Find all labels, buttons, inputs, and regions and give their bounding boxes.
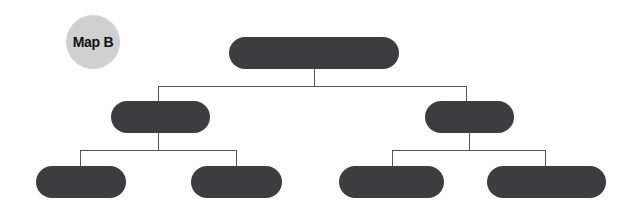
map-label-badge: Map B <box>66 15 120 69</box>
map-label-text: Map B <box>73 34 114 50</box>
leaf-node-1 <box>36 166 126 198</box>
connector-to-level1-left <box>158 86 159 101</box>
level1-node-left <box>111 101 210 133</box>
connector-to-leaf-3 <box>392 150 393 166</box>
connector-level1-right-down <box>469 133 470 150</box>
leaf-node-4 <box>487 166 606 198</box>
connector-to-level1-right <box>466 86 467 101</box>
connector-to-leaf-1 <box>80 150 81 166</box>
leaf-node-3 <box>339 166 444 198</box>
connector-right-bar <box>392 150 546 151</box>
connector-to-leaf-2 <box>236 150 237 166</box>
connector-level1-left-down <box>158 133 159 150</box>
leaf-node-2 <box>191 166 282 198</box>
connector-left-bar <box>80 150 237 151</box>
connector-root-down <box>314 69 315 86</box>
connector-to-leaf-4 <box>545 150 546 166</box>
diagram-canvas: Map B <box>0 0 639 214</box>
level1-node-right <box>425 101 514 133</box>
connector-level1-bar <box>158 86 466 87</box>
root-node <box>229 37 399 69</box>
